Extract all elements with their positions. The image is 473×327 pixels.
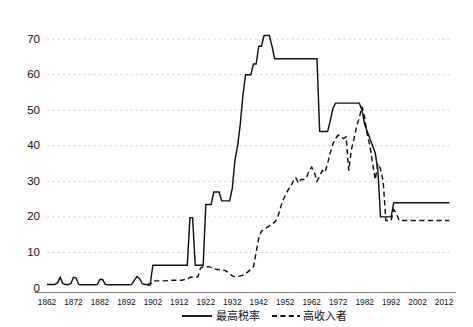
x-tick-1892: 1892	[117, 297, 136, 307]
x-tick-1932: 1932	[223, 297, 242, 307]
x-tick-2012: 2012	[435, 297, 454, 307]
y-tick-30: 30	[27, 175, 40, 187]
chart-container: 010203040506070 186218721882189219021912…	[0, 0, 473, 327]
y-tick-0: 0	[34, 282, 40, 294]
chart-background	[0, 0, 473, 327]
x-tick-1992: 1992	[382, 297, 401, 307]
x-tick-2002: 2002	[408, 297, 427, 307]
y-tick-40: 40	[27, 139, 40, 151]
x-tick-1922: 1922	[197, 297, 216, 307]
y-tick-20: 20	[27, 210, 40, 222]
legend-label-top-tax-rate: 最高税率	[216, 309, 260, 323]
line-chart: 010203040506070 186218721882189219021912…	[0, 0, 473, 327]
x-tick-1972: 1972	[329, 297, 348, 307]
x-tick-1872: 1872	[64, 297, 83, 307]
y-tick-70: 70	[27, 33, 40, 45]
x-tick-1952: 1952	[276, 297, 295, 307]
x-tick-1912: 1912	[170, 297, 189, 307]
x-tick-1902: 1902	[144, 297, 163, 307]
x-tick-1882: 1882	[91, 297, 110, 307]
x-tick-1962: 1962	[302, 297, 321, 307]
x-tick-1862: 1862	[38, 297, 57, 307]
y-tick-50: 50	[27, 104, 40, 116]
x-tick-1982: 1982	[355, 297, 374, 307]
y-tick-10: 10	[27, 246, 40, 258]
x-tick-1942: 1942	[250, 297, 269, 307]
y-tick-60: 60	[27, 68, 40, 80]
legend-label-high-income: 高收入者	[303, 309, 347, 323]
